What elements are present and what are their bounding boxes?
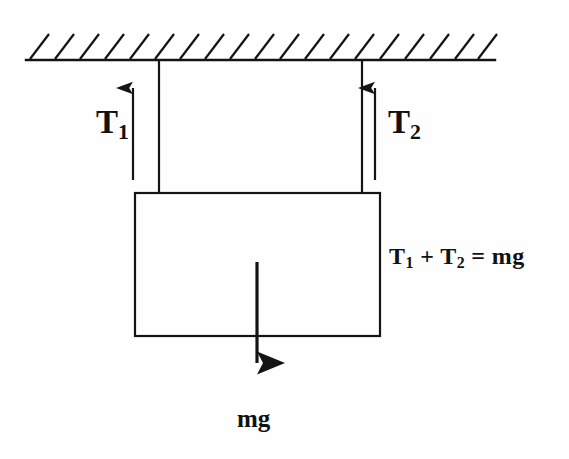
weight-label: mg <box>237 406 270 431</box>
tension-1-label: T1 <box>96 106 129 139</box>
physics-force-diagram: T1 T2 T1 + T2 = mg mg <box>0 0 569 459</box>
equation-mg: mg <box>492 243 525 269</box>
equation-t1-subscript: 1 <box>405 254 413 271</box>
strings-group <box>159 60 362 194</box>
equation-t2: T <box>440 243 456 269</box>
equation-t1: T <box>389 243 405 269</box>
equation-equals: = <box>465 243 492 269</box>
tension-2-subscript: 2 <box>410 120 421 144</box>
equation-t2-subscript: 2 <box>457 254 465 271</box>
tension-1-subscript: 1 <box>118 120 129 144</box>
force-arrows-group <box>133 88 375 363</box>
tension-1-symbol: T <box>96 104 118 140</box>
ceiling-hatching <box>30 34 497 59</box>
tension-2-label: T2 <box>388 106 421 139</box>
equilibrium-equation: T1 + T2 = mg <box>389 244 525 268</box>
equation-plus: + <box>414 243 440 269</box>
diagram-canvas <box>0 0 569 459</box>
tension-2-symbol: T <box>388 104 410 140</box>
ceiling-group <box>26 34 497 60</box>
